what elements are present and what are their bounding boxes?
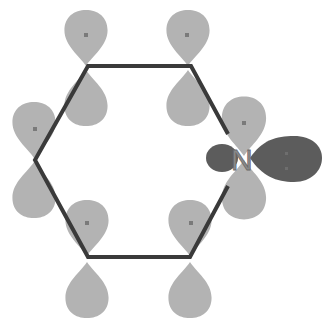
electron-dot <box>285 167 288 170</box>
pyridine-orbital-diagram: N <box>0 0 330 331</box>
electron-dot <box>84 33 88 37</box>
electron-dot <box>85 221 89 225</box>
nitrogen-label: N <box>231 143 253 176</box>
lone-pair-front-lobe <box>250 136 322 182</box>
electron-dot <box>33 127 37 131</box>
lone-pair-orbital-n <box>206 136 322 182</box>
electron-dot <box>189 221 193 225</box>
electron-dot <box>242 121 246 125</box>
electron-dot <box>185 33 189 37</box>
orbital-diagram-canvas: N <box>0 0 330 331</box>
electron-dot <box>285 152 288 155</box>
